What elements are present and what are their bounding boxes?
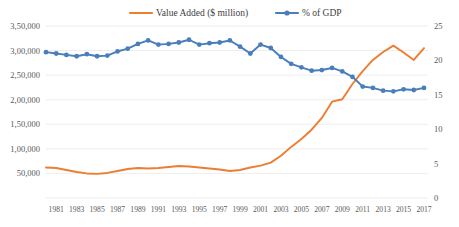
x-axis-tick-label: 2013 xyxy=(376,205,391,214)
data-point-marker xyxy=(166,41,171,46)
data-point-marker xyxy=(350,75,355,80)
y-axis-right-tick-label: 20 xyxy=(434,55,443,65)
data-point-marker xyxy=(115,49,120,54)
data-point-marker xyxy=(44,50,49,55)
x-axis-tick-label: 2015 xyxy=(396,205,411,214)
y-axis-left-tick-label: 1,50,000 xyxy=(10,119,40,129)
x-axis-tick-label: 1993 xyxy=(171,205,186,214)
y-axis-right-tick-label: 5 xyxy=(434,159,438,169)
x-axis-tick-label: 2017 xyxy=(416,205,431,214)
data-point-marker xyxy=(401,87,406,92)
y-axis-left-tick-label: 50,000 xyxy=(17,168,40,178)
data-point-marker xyxy=(391,89,396,94)
chart-legend: Value Added ($ million)% of GDP xyxy=(130,8,342,19)
data-point-marker xyxy=(299,65,304,70)
y-axis-right-tick-label: 15 xyxy=(434,90,443,100)
legend-swatch-marker xyxy=(284,10,289,15)
x-axis-tick-label: 2003 xyxy=(273,205,288,214)
y-axis-left-tick-label: 3,00,000 xyxy=(10,46,40,56)
data-point-marker xyxy=(238,44,243,49)
x-axis-tick-label: 1987 xyxy=(110,205,125,214)
data-point-marker xyxy=(207,41,212,46)
y-axis-right-labels: 0510152025 xyxy=(434,21,443,203)
series-group xyxy=(44,37,427,174)
data-point-marker xyxy=(279,55,284,60)
data-point-marker xyxy=(268,46,273,51)
y-axis-left-tick-label: 1,00,000 xyxy=(10,144,40,154)
data-point-marker xyxy=(146,38,151,43)
data-point-marker xyxy=(95,54,100,59)
x-axis-tick-label: 1983 xyxy=(69,205,84,214)
data-point-marker xyxy=(340,69,345,74)
data-point-marker xyxy=(64,53,69,58)
x-axis-tick-label: 1997 xyxy=(212,205,227,214)
y-axis-left-tick-label: 3,50,000 xyxy=(10,21,40,31)
series-line-value-added xyxy=(46,46,424,174)
data-point-marker xyxy=(319,68,324,73)
data-point-marker xyxy=(176,40,181,45)
y-axis-right-tick-label: 25 xyxy=(434,21,443,31)
x-axis-tick-label: 1991 xyxy=(151,205,166,214)
data-point-marker xyxy=(411,88,416,93)
data-point-marker xyxy=(330,66,335,71)
y-axis-left-tick-label: 2,50,000 xyxy=(10,70,40,80)
chart-container: 50,0001,00,0001,50,0002,00,0002,50,0003,… xyxy=(0,0,459,227)
data-point-marker xyxy=(125,46,130,51)
data-point-marker xyxy=(422,86,427,91)
data-point-marker xyxy=(371,86,376,91)
y-axis-right-tick-label: 10 xyxy=(434,124,443,134)
x-axis-tick-label: 2005 xyxy=(294,205,309,214)
data-point-marker xyxy=(248,51,253,56)
data-point-marker xyxy=(309,68,314,73)
data-point-marker xyxy=(217,40,222,45)
data-point-marker xyxy=(289,61,294,66)
y-axis-left-tick-label: 2,00,000 xyxy=(10,95,40,105)
x-axis-tick-label: 2011 xyxy=(355,205,370,214)
data-point-marker xyxy=(74,54,79,59)
data-point-marker xyxy=(360,84,365,89)
x-axis-tick-label: 1981 xyxy=(49,205,64,214)
x-axis-tick-label: 2007 xyxy=(314,205,329,214)
gridlines-group xyxy=(46,26,428,198)
x-axis-tick-label: 1985 xyxy=(89,205,104,214)
x-axis-labels: 1981198319851987198919911993199519971999… xyxy=(49,205,432,214)
data-point-marker xyxy=(84,52,89,57)
chart-canvas: 50,0001,00,0001,50,0002,00,0002,50,0003,… xyxy=(0,0,459,227)
x-axis-tick-label: 1995 xyxy=(192,205,207,214)
y-axis-right-tick-label: 0 xyxy=(434,193,438,203)
y-axis-left-labels: 50,0001,00,0001,50,0002,00,0002,50,0003,… xyxy=(10,21,40,178)
x-axis-tick-label: 1999 xyxy=(233,205,248,214)
data-point-marker xyxy=(187,37,192,42)
x-axis-tick-label: 1989 xyxy=(130,205,145,214)
legend-item-label: % of GDP xyxy=(302,8,342,18)
data-point-marker xyxy=(54,51,59,56)
x-axis-tick-label: 2009 xyxy=(335,205,350,214)
data-point-marker xyxy=(156,42,161,47)
data-point-marker xyxy=(136,41,141,46)
x-axis-tick-label: 2001 xyxy=(253,205,268,214)
legend-item-label: Value Added ($ million) xyxy=(156,8,248,19)
data-point-marker xyxy=(197,42,202,47)
data-point-marker xyxy=(381,88,386,93)
data-point-marker xyxy=(227,38,232,43)
data-point-marker xyxy=(105,53,110,58)
data-point-marker xyxy=(258,42,263,47)
